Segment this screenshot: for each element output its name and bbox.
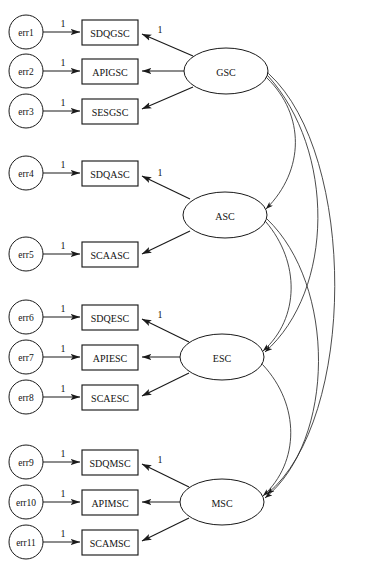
observed-node-sdqmsc[interactable]: SDQMSC bbox=[82, 450, 138, 475]
path-esc-scaesc bbox=[142, 373, 189, 396]
error-label-err5: err5 bbox=[18, 250, 34, 260]
latent-node-msc[interactable]: MSC bbox=[180, 479, 264, 525]
error-node-err1[interactable]: err1 bbox=[9, 15, 43, 49]
path-gsc-sdqgsc bbox=[142, 34, 193, 56]
path-msc-sdqmsc bbox=[142, 464, 189, 487]
latent-node-esc[interactable]: ESC bbox=[180, 334, 264, 380]
observed-label-scaesc: SCAESC bbox=[91, 393, 129, 404]
error-node-err7[interactable]: err7 bbox=[9, 340, 43, 374]
latent-node-asc[interactable]: ASC bbox=[183, 192, 267, 238]
weight-label-esc-sdqesc: 1 bbox=[158, 309, 163, 320]
observed-node-sdqesc[interactable]: SDQESC bbox=[82, 305, 138, 330]
observed-label-sdqesc: SDQESC bbox=[91, 313, 130, 324]
covariance-arc-asc-msc bbox=[265, 219, 319, 498]
error-node-err11[interactable]: err11 bbox=[9, 525, 43, 559]
path-asc-scaasc bbox=[142, 231, 190, 254]
covariance-arc-gsc-asc bbox=[266, 78, 295, 209]
covariance-arc-esc-msc bbox=[263, 365, 291, 496]
diagram-canvas: SDQGSC APIGSC SESGSC SDQASC SCAASC SDQES… bbox=[0, 0, 370, 569]
observed-node-sesgsc[interactable]: SESGSC bbox=[82, 99, 138, 124]
weight-label-err5: 1 bbox=[61, 240, 66, 251]
error-label-err6: err6 bbox=[18, 313, 34, 323]
error-label-err1: err1 bbox=[18, 28, 34, 38]
path-gsc-sesgsc bbox=[142, 87, 193, 109]
path-esc-sdqesc bbox=[142, 319, 189, 342]
error-node-err4[interactable]: err4 bbox=[9, 156, 43, 190]
error-node-err5[interactable]: err5 bbox=[9, 237, 43, 271]
observed-node-apiesc[interactable]: APIESC bbox=[82, 345, 138, 370]
observed-label-scamsc: SCAMSC bbox=[90, 538, 131, 549]
sem-path-diagram: SDQGSC APIGSC SESGSC SDQASC SCAASC SDQES… bbox=[0, 0, 370, 569]
error-label-err3: err3 bbox=[18, 107, 34, 117]
observed-label-sesgsc: SESGSC bbox=[92, 107, 129, 118]
observed-label-sdqasc: SDQASC bbox=[90, 169, 130, 180]
observed-node-apigsc[interactable]: APIGSC bbox=[82, 59, 138, 84]
observed-label-apigsc: APIGSC bbox=[92, 67, 128, 78]
observed-node-scaesc[interactable]: SCAESC bbox=[82, 385, 138, 410]
latent-label-gsc: GSC bbox=[216, 67, 236, 78]
observed-label-scaasc: SCAASC bbox=[91, 250, 130, 261]
weight-label-err8: 1 bbox=[61, 383, 66, 394]
error-weight-label-group: 1 1 1 1 1 1 1 1 1 1 1 bbox=[61, 18, 66, 539]
error-path-group bbox=[43, 32, 80, 542]
covariance-arc-asc-esc bbox=[263, 222, 291, 351]
weight-label-msc-sdqmsc: 1 bbox=[158, 454, 163, 465]
error-node-err8[interactable]: err8 bbox=[9, 380, 43, 414]
latent-label-asc: ASC bbox=[215, 211, 235, 222]
observed-label-sdqmsc: SDQMSC bbox=[89, 458, 130, 469]
observed-node-scamsc[interactable]: SCAMSC bbox=[82, 530, 138, 555]
error-node-err6[interactable]: err6 bbox=[9, 300, 43, 334]
latent-label-msc: MSC bbox=[211, 498, 232, 509]
weight-label-err10: 1 bbox=[61, 488, 66, 499]
loading-path-group bbox=[142, 34, 193, 541]
error-label-err2: err2 bbox=[18, 67, 34, 77]
latent-node-group: GSC ASC ESC MSC bbox=[180, 48, 268, 525]
observed-node-sdqasc[interactable]: SDQASC bbox=[82, 161, 138, 186]
weight-label-err6: 1 bbox=[61, 303, 66, 314]
error-node-err9[interactable]: err9 bbox=[9, 445, 43, 479]
weight-label-err11: 1 bbox=[61, 528, 66, 539]
error-label-err4: err4 bbox=[18, 169, 34, 179]
observed-node-scaasc[interactable]: SCAASC bbox=[82, 242, 138, 267]
error-node-err10[interactable]: err10 bbox=[9, 485, 43, 519]
error-label-err10: err10 bbox=[16, 498, 36, 508]
error-node-err2[interactable]: err2 bbox=[9, 54, 43, 88]
latent-node-gsc[interactable]: GSC bbox=[184, 48, 268, 94]
path-asc-sdqasc bbox=[142, 176, 190, 199]
covariance-arc-gsc-msc bbox=[267, 74, 335, 494]
latent-label-esc: ESC bbox=[213, 353, 232, 364]
observed-node-group: SDQGSC APIGSC SESGSC SDQASC SCAASC SDQES… bbox=[82, 20, 138, 555]
error-label-err8: err8 bbox=[18, 393, 34, 403]
observed-label-apiesc: APIESC bbox=[93, 353, 128, 364]
path-msc-scamsc bbox=[142, 518, 189, 541]
covariance-arc-group bbox=[263, 74, 335, 498]
observed-label-sdqgsc: SDQGSC bbox=[90, 28, 130, 39]
observed-node-apimsc[interactable]: APIMSC bbox=[82, 490, 138, 515]
error-node-group: err1 err2 err3 err4 err5 err6 bbox=[9, 15, 43, 559]
error-label-err9: err9 bbox=[18, 458, 34, 468]
observed-label-apimsc: APIMSC bbox=[91, 498, 129, 509]
weight-label-err1: 1 bbox=[61, 18, 66, 29]
weight-label-err2: 1 bbox=[61, 57, 66, 68]
weight-label-gsc-sdqgsc: 1 bbox=[158, 24, 163, 35]
weight-label-asc-sdqasc: 1 bbox=[158, 167, 163, 178]
weight-label-err3: 1 bbox=[61, 97, 66, 108]
error-label-err7: err7 bbox=[18, 353, 34, 363]
observed-node-sdqgsc[interactable]: SDQGSC bbox=[82, 20, 138, 45]
error-node-err3[interactable]: err3 bbox=[9, 94, 43, 128]
weight-label-err7: 1 bbox=[61, 343, 66, 354]
page-header-fragment bbox=[0, 0, 370, 9]
weight-label-err9: 1 bbox=[61, 448, 66, 459]
error-label-err11: err11 bbox=[16, 538, 36, 548]
weight-label-err4: 1 bbox=[61, 159, 66, 170]
